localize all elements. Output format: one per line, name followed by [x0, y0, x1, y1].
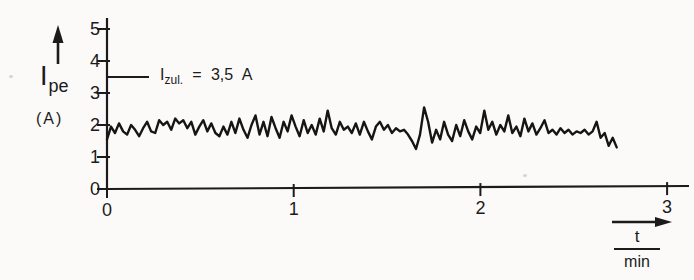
y-axis-label-symbol: I: [40, 61, 48, 91]
current-trace: [107, 107, 617, 149]
limit-annotation-subscript: zul.: [164, 73, 183, 87]
y-tick-label: 3: [70, 82, 100, 104]
limit-annotation: Izul.= 3,5 A: [160, 66, 252, 84]
y-tick-label: 1: [70, 146, 100, 168]
x-tick-label: 0: [102, 199, 112, 221]
axis-ticks: [97, 29, 667, 198]
y-axis-unit-label: (A): [36, 110, 63, 128]
y-tick-label: 5: [70, 18, 100, 40]
scan-speck: [523, 174, 527, 177]
x-tick-label: 1: [289, 198, 299, 220]
limit-annotation-value: = 3,5 A: [192, 66, 252, 83]
y-tick-label: 4: [70, 50, 100, 72]
scanned-chart-figure: Ipe (A) 012345 0123 Izul.= 3,5 A t min: [0, 0, 694, 280]
x-tick-label: 2: [475, 197, 485, 219]
y-axis-label-subscript: pe: [49, 76, 69, 96]
x-axis-unit-numerator: t: [614, 227, 660, 250]
y-tick-label: 0: [70, 178, 100, 200]
x-axis-unit-label: t min: [611, 227, 663, 271]
x-axis-arrow-icon: [612, 217, 672, 227]
x-tick-label: 3: [662, 196, 672, 218]
scan-speck: [9, 75, 13, 78]
y-axis-label: Ipe: [40, 63, 68, 90]
x-axis-unit-denominator: min: [611, 250, 663, 271]
current-vs-time-plot: [0, 0, 694, 280]
x-axis-line: [106, 186, 689, 189]
y-axis-arrow-icon: [53, 25, 64, 64]
y-tick-label: 2: [70, 114, 100, 136]
